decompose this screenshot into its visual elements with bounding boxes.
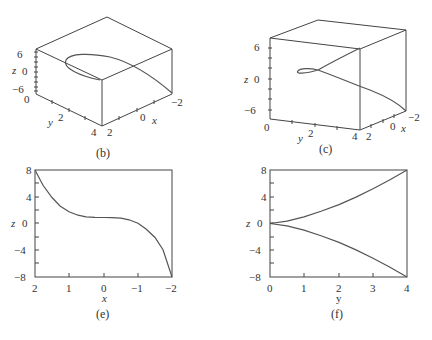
y-tick-label: 4	[91, 126, 97, 138]
y-ticks	[35, 183, 39, 263]
figure-canvas: 6 z 0 −6 0 2 y 4 2 0 x −2 (b) 6	[0, 0, 432, 340]
curve-3d-c	[297, 48, 406, 111]
x-axis-label: x	[151, 114, 157, 126]
x-tick-label: −2	[165, 282, 177, 294]
x-tick-label: 2	[32, 282, 38, 294]
z-tick-label: 0	[254, 73, 260, 85]
box-top-face	[270, 20, 406, 49]
y-tick-label: −4	[249, 244, 261, 256]
y-tick-label: 2	[58, 111, 64, 123]
z-tick-label: 6	[254, 41, 260, 53]
x-tick-label: 4	[404, 282, 410, 294]
y-tick-label: −4	[14, 244, 26, 256]
y-ticks	[52, 100, 85, 120]
x-ticks	[304, 273, 373, 277]
x-tick-label: −2	[408, 111, 420, 123]
panel-e: 8 4 z 0 −4 −8 2 1 0 −1 −2 x (e)	[10, 164, 177, 321]
x-tick-label: −1	[131, 282, 143, 294]
panel-c: 6 z 0 −6 0 2 y 4 2 0 x −2 (c)	[243, 20, 420, 156]
y-ticks	[292, 120, 337, 130]
x-tick-label: 3	[370, 282, 376, 294]
y-axis-label: z	[10, 217, 16, 229]
x-tick-label: 1	[66, 282, 72, 294]
caption-c: (c)	[319, 142, 332, 156]
caption-e: (e)	[96, 307, 109, 321]
x-tick-label: 0	[390, 120, 396, 132]
x-axis-label: x	[400, 122, 406, 134]
caption-b: (b)	[96, 146, 110, 160]
x-tick-label: 2	[366, 130, 372, 142]
x-tick-label: 1	[301, 282, 307, 294]
z-tick-label: −6	[12, 83, 24, 95]
curve-3d-b	[65, 54, 172, 93]
panel-f: 8 4 z 0 −4 −8 0 1 2 3 4 y (f)	[245, 164, 410, 321]
box-top-face	[36, 17, 172, 80]
y-tick-label: 0	[264, 121, 270, 133]
curve-upper-branch	[270, 170, 407, 224]
y-tick-label: 0	[257, 217, 263, 229]
x-tick-label: 0	[140, 111, 146, 123]
x-tick-label: 2	[107, 126, 113, 138]
plot-frame	[35, 170, 172, 277]
x-tick-label: −2	[171, 96, 183, 108]
y-tick-label: 8	[26, 164, 32, 176]
y-tick-label: 4	[352, 130, 358, 142]
x-axis-label: x	[101, 292, 107, 304]
y-tick-label: −8	[14, 271, 26, 283]
curve-z-vs-x	[35, 170, 172, 277]
y-tick-label: 4	[26, 191, 32, 203]
z-tick-label: 0	[22, 65, 28, 77]
z-tick-label: −6	[244, 104, 256, 116]
x-ticks	[119, 100, 154, 120]
x-axis-label: y	[336, 292, 342, 304]
y-tick-label: −8	[249, 271, 261, 283]
plot-frame	[270, 170, 407, 277]
y-tick-label: 8	[261, 164, 267, 176]
y-tick-label: 2	[308, 127, 314, 139]
y-tick-label: 4	[261, 191, 267, 203]
curve-lower-branch	[270, 224, 407, 278]
z-axis-label: z	[11, 64, 17, 76]
y-axis-label: y	[297, 132, 303, 144]
y-axis-label: z	[245, 217, 251, 229]
y-tick-label: 0	[22, 217, 28, 229]
y-axis-label: y	[47, 116, 53, 128]
caption-f: (f)	[331, 307, 343, 321]
x-ticks	[69, 273, 138, 277]
y-tick-label: 0	[24, 93, 30, 105]
z-tick-label: 6	[17, 48, 23, 60]
panel-b: 6 z 0 −6 0 2 y 4 2 0 x −2 (b)	[11, 17, 183, 160]
x-tick-label: 0	[267, 282, 273, 294]
z-axis-label: z	[243, 73, 249, 85]
